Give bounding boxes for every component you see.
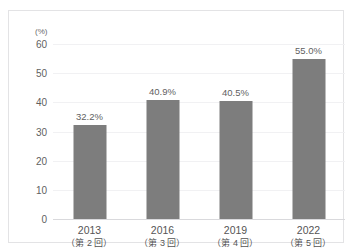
- bar-group: 40.9%2016（第 3 回）: [126, 44, 199, 219]
- x-tick-label-group: 2022（第 5 回）: [285, 224, 331, 249]
- bar-chart-figure: (%) 010203040506032.2%2013（第 2 回）40.9%20…: [0, 0, 353, 252]
- bar-value-label: 40.5%: [222, 87, 249, 98]
- x-axis-line: 0: [53, 219, 345, 220]
- x-tick-year-label: 2019: [212, 224, 258, 237]
- x-tick-year-label: 2016: [139, 224, 185, 237]
- bar: [146, 100, 179, 219]
- bar-value-label: 40.9%: [149, 86, 176, 97]
- bar-group: 40.5%2019（第 4 回）: [199, 44, 272, 219]
- x-tick-label-group: 2016（第 3 回）: [139, 224, 185, 249]
- y-tick-label: 20: [36, 155, 47, 166]
- x-tick-year-label: 2022: [285, 224, 331, 237]
- bar-group: 32.2%2013（第 2 回）: [53, 44, 126, 219]
- y-tick-label: 40: [36, 97, 47, 108]
- y-tick-label: 30: [36, 126, 47, 137]
- plot-area: 010203040506032.2%2013（第 2 回）40.9%2016（第…: [53, 44, 345, 219]
- bar: [219, 101, 252, 219]
- y-tick-label: 50: [36, 68, 47, 79]
- bar: [73, 125, 106, 219]
- y-tick-label: 60: [36, 39, 47, 50]
- bar: [292, 59, 325, 219]
- x-tick-round-label: （第 4 回）: [212, 237, 258, 249]
- bar-group: 55.0%2022（第 5 回）: [272, 44, 345, 219]
- x-tick-round-label: （第 5 回）: [285, 237, 331, 249]
- y-tick-label: 10: [36, 184, 47, 195]
- y-axis-unit-label: (%): [35, 27, 47, 36]
- bar-value-label: 55.0%: [295, 45, 322, 56]
- x-tick-label-group: 2019（第 4 回）: [212, 224, 258, 249]
- x-tick-year-label: 2013: [66, 224, 112, 237]
- chart-frame: (%) 010203040506032.2%2013（第 2 回）40.9%20…: [8, 10, 344, 243]
- x-tick-round-label: （第 2 回）: [66, 237, 112, 249]
- bar-value-label: 32.2%: [76, 111, 103, 122]
- y-tick-label: 0: [41, 214, 47, 225]
- x-tick-label-group: 2013（第 2 回）: [66, 224, 112, 249]
- x-tick-round-label: （第 3 回）: [139, 237, 185, 249]
